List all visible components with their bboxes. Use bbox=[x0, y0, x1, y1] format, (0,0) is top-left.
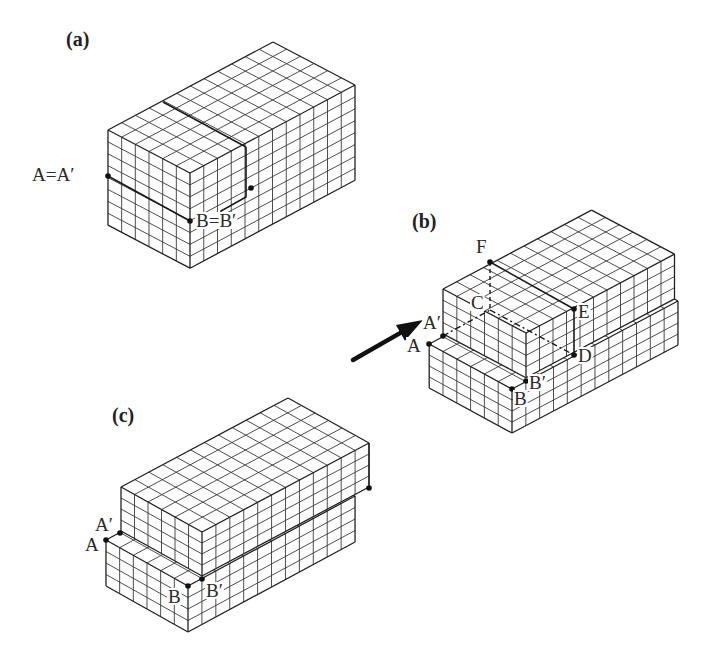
lattice-point-dot bbox=[117, 530, 123, 536]
panel-label-a: (a) bbox=[66, 28, 89, 51]
point-label-b: E bbox=[578, 301, 590, 322]
lattice-point-dot bbox=[103, 537, 109, 543]
point-label-c: A bbox=[85, 534, 99, 555]
point-label-b: D bbox=[578, 345, 592, 366]
point-label-b: A′ bbox=[423, 312, 441, 333]
block-c-full-slip bbox=[106, 398, 369, 632]
panel-label-b: (b) bbox=[412, 210, 436, 233]
point-label-b: C bbox=[471, 292, 484, 313]
lattice-point-dot bbox=[185, 583, 191, 589]
lattice-point-dot bbox=[571, 352, 577, 358]
point-label-c: A′ bbox=[95, 514, 113, 535]
lattice-point-dot bbox=[366, 485, 372, 491]
panel-label-c: (c) bbox=[112, 404, 134, 427]
lattice-point-dot bbox=[187, 218, 193, 224]
lattice-point-dot bbox=[571, 306, 577, 312]
point-label-c: B′ bbox=[206, 580, 223, 601]
point-label-b: F bbox=[476, 236, 487, 257]
point-label-c: B bbox=[168, 586, 181, 607]
lattice-point-dot bbox=[105, 173, 111, 179]
lattice-point-dot bbox=[199, 576, 205, 582]
lattice-point-dot bbox=[487, 259, 493, 265]
lattice-point-dot bbox=[440, 333, 446, 339]
lattice-point-dot bbox=[426, 341, 432, 347]
block-a-perfect-crystal bbox=[108, 42, 355, 268]
point-label-a: B=B′ bbox=[196, 210, 236, 231]
point-label-b: B′ bbox=[529, 372, 546, 393]
point-label-a: A=A′ bbox=[32, 164, 74, 185]
point-label-b: A bbox=[407, 335, 421, 356]
dislocation-diagram: A=A′B=B′FCEA′ADB′BA′ABB′ (a)(b)(c) bbox=[0, 0, 707, 662]
lattice-point-dot bbox=[248, 185, 254, 191]
block-b-edge-dislocation-slip bbox=[429, 210, 678, 433]
arrow-shaft bbox=[353, 332, 402, 360]
point-label-b: B bbox=[514, 388, 527, 409]
crystal-block-a bbox=[108, 42, 355, 268]
lattice-point-dot bbox=[523, 378, 529, 384]
